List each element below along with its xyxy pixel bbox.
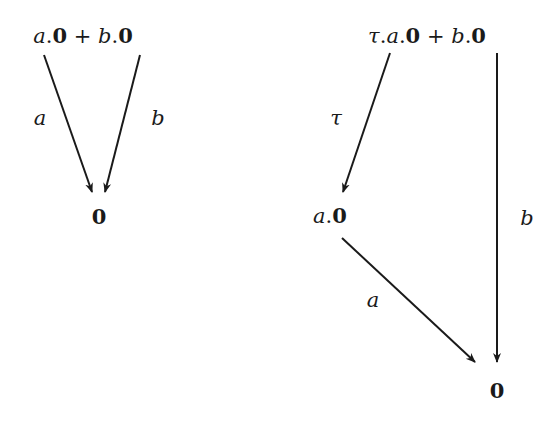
term-plus: +: [420, 24, 451, 48]
left-edge-a-arrow: [44, 55, 92, 192]
term-nil: 0: [471, 23, 486, 48]
term-action: a: [386, 24, 399, 48]
right-edge-tau-arrow: [343, 53, 390, 192]
term-tau: τ: [368, 24, 380, 48]
term-action: b: [98, 24, 111, 48]
term-nil: 0: [332, 203, 347, 228]
arrows-layer: [0, 0, 559, 424]
lts-diagram-canvas: a.0 + b.0 a b 0 τ.a.0 + b.0 τ b a.0 a 0: [0, 0, 559, 424]
left-root-node: a.0 + b.0: [33, 25, 133, 47]
term-nil: 0: [406, 23, 421, 48]
right-edge-a-arrow: [342, 238, 475, 362]
term-action: a: [313, 204, 326, 228]
term-plus: +: [67, 24, 98, 48]
term-dot: .: [399, 24, 406, 48]
term-action: a: [33, 24, 46, 48]
right-zero-node: 0: [490, 380, 505, 401]
left-edge-b-label: b: [151, 108, 164, 129]
left-edge-b-arrow: [105, 55, 140, 192]
right-edge-b-label: b: [520, 208, 533, 229]
term-dot: .: [111, 24, 118, 48]
right-a0-node: a.0: [313, 205, 347, 227]
term-action: b: [451, 24, 464, 48]
term-nil: 0: [52, 23, 67, 48]
right-edge-a-label: a: [367, 290, 380, 311]
term-nil: 0: [118, 23, 133, 48]
left-zero-node: 0: [92, 206, 107, 227]
right-edge-tau-label: τ: [330, 108, 342, 129]
right-root-node: τ.a.0 + b.0: [368, 25, 486, 47]
left-edge-a-label: a: [34, 108, 47, 129]
